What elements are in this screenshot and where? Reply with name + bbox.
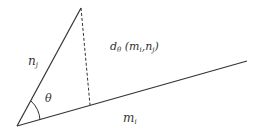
angle-arc bbox=[31, 101, 40, 120]
angle-label: θ bbox=[45, 93, 52, 104]
vector-n-label: nj bbox=[28, 55, 38, 69]
vector-n-line bbox=[17, 8, 81, 126]
distance-dashed-line bbox=[81, 8, 90, 105]
angle-distance-diagram: nj mi θ dθ (mi,nj) bbox=[0, 0, 262, 138]
distance-label: dθ (mi,nj) bbox=[110, 41, 159, 54]
vector-m-label: mi bbox=[123, 112, 137, 126]
